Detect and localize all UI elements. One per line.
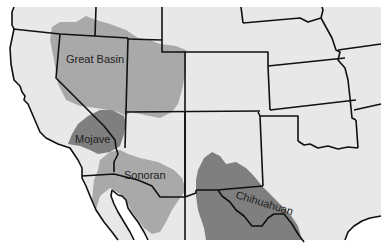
border-or-id (95, 7, 96, 36)
label-mojave: Mojave (75, 133, 110, 145)
border-ut-az-nm (125, 111, 260, 112)
right-margin (381, 0, 385, 248)
label-sonoran: Sonoran (124, 169, 166, 181)
bottom-margin (0, 240, 385, 248)
label-great-basin: Great Basin (66, 53, 124, 65)
desert-map: Great Basin Mojave Sonoran Chihuahuan (0, 0, 385, 248)
